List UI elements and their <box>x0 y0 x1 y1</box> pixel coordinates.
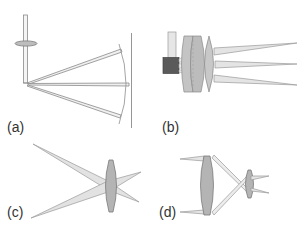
panel-label-d: (d) <box>159 205 176 219</box>
lens-d-small <box>246 170 254 198</box>
source-block-b <box>163 58 179 74</box>
optics-diagram <box>0 0 306 229</box>
collimator-disk-a <box>15 41 37 46</box>
lens-d-large <box>201 156 214 215</box>
lens-c <box>106 160 117 212</box>
lens-b2 <box>191 36 205 92</box>
lens-b3 <box>205 36 214 92</box>
crossing-rays-d <box>212 155 249 215</box>
panel-c-drawing <box>31 144 141 218</box>
fiber-a <box>24 15 28 83</box>
rays-a <box>27 49 129 118</box>
panel-a-drawing <box>15 15 132 128</box>
panel-label-a: (a) <box>7 120 24 134</box>
panel-d-drawing <box>180 155 269 215</box>
panel-label-b: (b) <box>162 120 179 134</box>
panel-label-c: (c) <box>7 205 23 219</box>
panel-b-drawing <box>163 32 297 92</box>
ray-fans-b <box>214 43 297 85</box>
ray-bundles-c <box>31 144 141 218</box>
fiber-b <box>168 32 176 58</box>
